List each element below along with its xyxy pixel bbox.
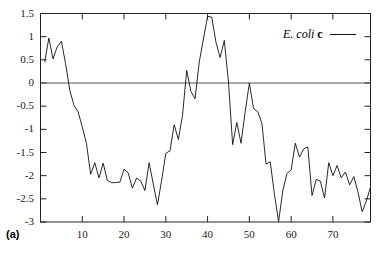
y-tick-label: 1.5 bbox=[0, 7, 34, 19]
y-tick-label: -2.5 bbox=[0, 192, 34, 204]
legend-strand-label: c bbox=[317, 27, 322, 41]
legend: E. coli c bbox=[283, 27, 356, 42]
panel-label: (a) bbox=[6, 228, 19, 240]
legend-line-swatch bbox=[330, 34, 356, 35]
plot-border bbox=[41, 14, 371, 223]
x-tick-label: 50 bbox=[231, 228, 267, 240]
x-tick-label: 60 bbox=[273, 228, 309, 240]
x-tick-label: 30 bbox=[148, 228, 184, 240]
y-tick-label: 0 bbox=[0, 76, 34, 88]
data-series-line bbox=[45, 16, 371, 221]
x-tick-label: 70 bbox=[315, 228, 351, 240]
legend-species-label: E. coli bbox=[283, 27, 314, 41]
y-tick-label: 1 bbox=[0, 30, 34, 42]
axis-ticks bbox=[41, 14, 371, 223]
y-tick-label: -1 bbox=[0, 122, 34, 134]
x-tick-label: 10 bbox=[64, 228, 100, 240]
y-tick-label: -3 bbox=[0, 215, 34, 227]
x-tick-label: 40 bbox=[190, 228, 226, 240]
y-tick-label: -2 bbox=[0, 169, 34, 181]
y-tick-label: -1.5 bbox=[0, 146, 34, 158]
plot-frame bbox=[41, 14, 371, 223]
y-tick-label: 0.5 bbox=[0, 53, 34, 65]
x-tick-label: 20 bbox=[106, 228, 142, 240]
y-tick-label: -0.5 bbox=[0, 99, 34, 111]
figure-panel-a: (a) E. coli c 1.510.50-0.5-1-1.5-2-2.5-3… bbox=[0, 0, 388, 257]
